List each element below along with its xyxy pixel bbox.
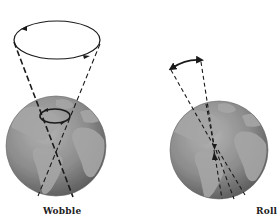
precession-ellipse-icon xyxy=(14,21,100,59)
diagram-canvas xyxy=(0,0,279,220)
wobble-globe-icon xyxy=(6,96,106,196)
roll-globe-icon xyxy=(170,101,268,199)
roll-panel xyxy=(170,60,268,199)
wobble-panel xyxy=(6,21,106,197)
double-arrow-arc-icon xyxy=(172,60,200,68)
wobble-label: Wobble xyxy=(43,206,81,216)
roll-label: Roll xyxy=(256,206,277,216)
